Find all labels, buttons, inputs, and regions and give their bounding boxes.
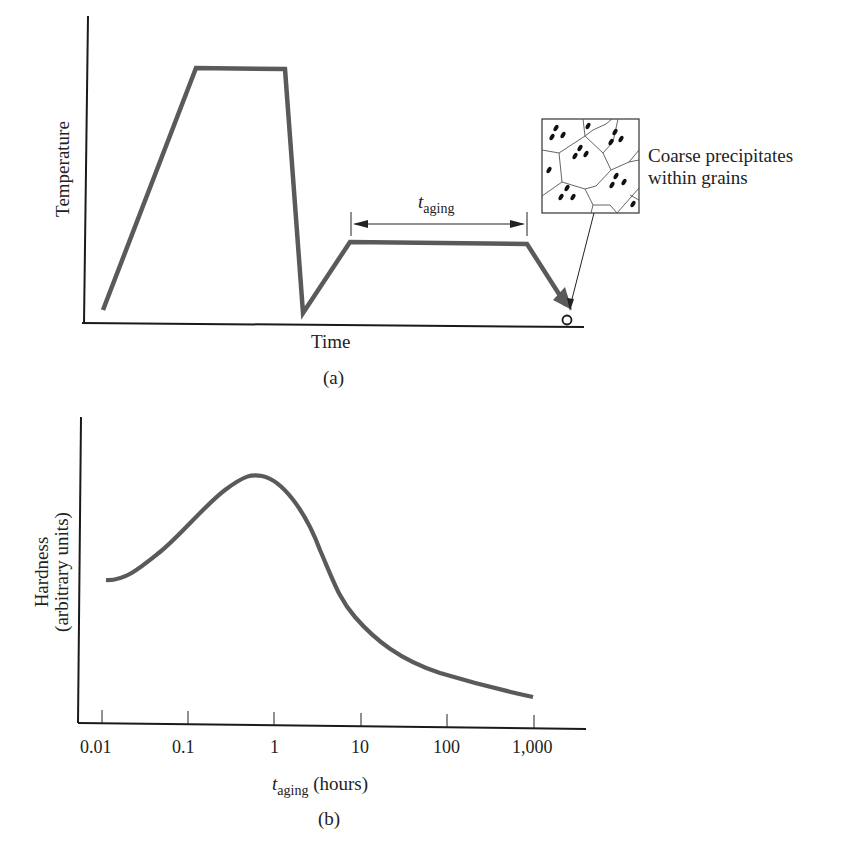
taging-right-arrow-icon bbox=[510, 220, 525, 228]
panel-b-y-label-line2: (arbitrary units) bbox=[52, 492, 72, 652]
inset-annotation-line2: within grains bbox=[648, 167, 793, 189]
panel-b-x-label-unit: (hours) bbox=[308, 773, 368, 794]
x-tick-label-10: 10 bbox=[351, 737, 369, 758]
panel-a-y-axis bbox=[84, 16, 88, 324]
x-tick-label-1000: 1,000 bbox=[512, 737, 553, 758]
panel-a-x-axis bbox=[82, 323, 584, 327]
x-tick-label-0.1: 0.1 bbox=[172, 737, 195, 758]
x-tick-label-0.01: 0.01 bbox=[80, 737, 112, 758]
panel-a-caption: (a) bbox=[323, 367, 344, 389]
taging-interval-label: taging bbox=[418, 191, 454, 217]
inset-leader-line bbox=[571, 213, 594, 303]
panel-b-x-axis bbox=[78, 723, 586, 729]
inset-annotation: Coarse precipitates within grains bbox=[648, 145, 793, 189]
microstructure-inset bbox=[542, 119, 639, 213]
x-tick-label-100: 100 bbox=[433, 737, 460, 758]
panel-b-x-label-sub: aging bbox=[277, 783, 308, 798]
temperature-schedule-curve bbox=[103, 68, 566, 313]
panel-b-y-axis bbox=[78, 417, 81, 723]
taging-left-arrow-icon bbox=[353, 220, 368, 228]
x-tick-label-1: 1 bbox=[270, 737, 279, 758]
panel-b-caption: (b) bbox=[318, 808, 340, 830]
panel-b bbox=[78, 417, 586, 729]
taging-label-sub: aging bbox=[423, 201, 454, 216]
panel-b-x-label: taging (hours) bbox=[272, 773, 368, 799]
panel-a bbox=[82, 16, 639, 327]
panel-b-y-label-line1: Hardness bbox=[32, 492, 52, 652]
hardness-curve bbox=[106, 475, 533, 697]
panel-a-x-label: Time bbox=[311, 331, 350, 353]
end-state-circle bbox=[563, 316, 572, 325]
inset-annotation-line1: Coarse precipitates bbox=[648, 145, 793, 167]
figure-canvas bbox=[0, 0, 845, 848]
panel-b-y-label: Hardness (arbitrary units) bbox=[32, 492, 72, 652]
panel-a-y-label: Temperature bbox=[52, 114, 74, 224]
